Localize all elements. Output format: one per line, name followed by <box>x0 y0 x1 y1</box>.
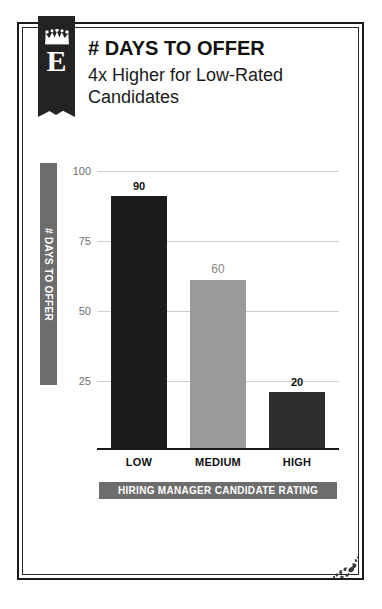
x-axis-category-labels: LOW MEDIUM HIGH <box>97 456 339 474</box>
x-axis-title: HIRING MANAGER CANDIDATE RATING <box>118 485 318 496</box>
bar-chart: 100 75 50 25 90 60 20 <box>97 168 339 450</box>
y-axis-title-bar: # DAYS TO OFFER <box>40 163 57 385</box>
y-tick-label-25: 25 <box>79 375 91 387</box>
ribbon-tail <box>38 104 75 117</box>
page-title: # DAYS TO OFFER <box>88 36 353 60</box>
brand-letter: E <box>46 46 66 76</box>
flourish-ornament-icon <box>328 553 362 587</box>
bar-value-high: 20 <box>269 376 325 388</box>
heading-block: # DAYS TO OFFER 4x Higher for Low-Rated … <box>88 36 353 108</box>
category-label-low: LOW <box>102 456 176 468</box>
crown-icon <box>44 29 70 45</box>
y-axis-title: # DAYS TO OFFER <box>43 228 54 321</box>
brand-ribbon-content: E <box>38 16 75 104</box>
category-label-medium: MEDIUM <box>181 456 255 468</box>
bar-slot-medium: 60 <box>190 168 246 448</box>
bar-value-medium: 60 <box>190 262 246 276</box>
bar-low <box>111 196 167 448</box>
y-tick-label-50: 50 <box>79 305 91 317</box>
y-tick-label-100: 100 <box>73 165 91 177</box>
bar-group: 90 60 20 <box>97 168 339 448</box>
category-label-high: HIGH <box>260 456 334 468</box>
brand-ribbon: E <box>38 16 75 104</box>
x-axis-title-bar: HIRING MANAGER CANDIDATE RATING <box>99 482 337 499</box>
x-axis-baseline <box>97 448 339 450</box>
y-tick-label-75: 75 <box>79 235 91 247</box>
page-subtitle: 4x Higher for Low-Rated Candidates <box>88 64 353 108</box>
bar-high <box>269 392 325 448</box>
infographic-card: E # DAYS TO OFFER 4x Higher for Low-Rate… <box>0 0 382 609</box>
bar-value-low: 90 <box>111 180 167 192</box>
bar-slot-low: 90 <box>111 168 167 448</box>
bar-slot-high: 20 <box>269 168 325 448</box>
bar-medium <box>190 280 246 448</box>
